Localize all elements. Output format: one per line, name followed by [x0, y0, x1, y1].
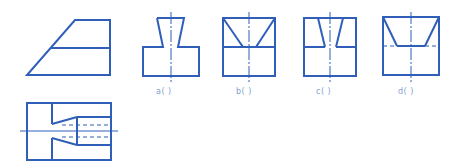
option-b-figure: [223, 12, 275, 82]
given-view-section: [20, 103, 118, 160]
option-b-label: b( ): [236, 87, 252, 96]
option-c-label: c( ): [316, 87, 331, 96]
drawing-canvas: [0, 0, 460, 168]
option-c-figure: [304, 12, 356, 82]
given-view-trapezoid: [27, 20, 110, 75]
option-d-figure: [383, 12, 439, 82]
option-a-label: a( ): [156, 87, 172, 96]
option-d-label: d( ): [398, 87, 414, 96]
option-a-figure: [143, 12, 199, 82]
